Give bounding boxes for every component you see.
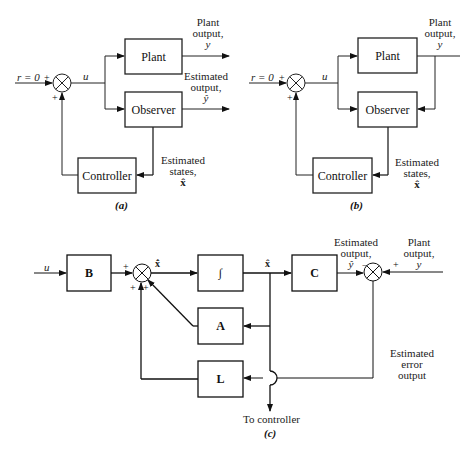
to-controller-label: To controller (243, 414, 300, 425)
signal-u-a: u (83, 71, 89, 82)
summer1-sign-3: + (143, 283, 149, 293)
plant-label-b: Plant (358, 38, 417, 73)
summer-sign-a-1: + (44, 73, 50, 83)
estimated-output-label-a: Estimated output, ŷ (180, 71, 232, 104)
error-output-label: Estimated error output (384, 348, 440, 381)
signal-u-b: u (322, 71, 328, 82)
estimated-output-symbol: ŷ (180, 93, 232, 104)
controller-label-b: Controller (313, 158, 372, 193)
xhat-label: x̂ (265, 258, 270, 269)
observer-label-b: Observer (358, 92, 417, 127)
input-u-label-c: u (44, 262, 50, 273)
summer-sign-b-1: + (279, 73, 285, 83)
input-label-a: r = 0 (17, 72, 40, 83)
plant-output-symbol: y (188, 39, 228, 50)
a-block-label: A (198, 308, 243, 344)
summer1-sign-2: + (130, 283, 136, 293)
estimated-states-label-b: Estimated states, x̂ (391, 157, 443, 190)
estimated-states-symbol-b: x̂ (391, 179, 443, 190)
summer-sign-b-2: + (287, 93, 293, 103)
b-block-label: B (67, 255, 111, 291)
estimated-states-symbol: x̂ (157, 177, 209, 188)
estimated-states-label-a: Estimated states, x̂ (157, 155, 209, 188)
summer1-sign-1: + (123, 262, 129, 272)
plant-label-a: Plant (125, 39, 182, 74)
estimated-output-symbol-c: ŷ (320, 259, 382, 270)
caption-b: (b) (350, 199, 363, 211)
summer-sign-a-2: + (52, 93, 58, 103)
l-block-label: L (198, 361, 243, 397)
plant-output-symbol-c: y (397, 259, 441, 270)
integrator-label: ∫ (198, 255, 243, 291)
plant-output-label-a: Plant output, y (188, 17, 228, 50)
caption-a: (a) (115, 199, 128, 211)
estimated-output-line2-c: output, (330, 248, 382, 259)
plant-output-symbol-b: y (420, 39, 460, 50)
controller-label-a: Controller (78, 158, 136, 193)
input-label-b: r = 0 (251, 72, 274, 83)
observer-label-a: Observer (125, 92, 182, 127)
error-output-line3: output (384, 370, 440, 381)
caption-c: (c) (264, 427, 276, 439)
plant-output-label-b: Plant output, y (420, 17, 460, 50)
estimated-output-label-c: Estimated output, ŷ (330, 237, 382, 270)
summer2-sign-minus: − (362, 261, 368, 271)
xhat-dot-label: x̂̇ (155, 258, 160, 269)
plant-output-label-c: Plant output, y (397, 237, 441, 270)
